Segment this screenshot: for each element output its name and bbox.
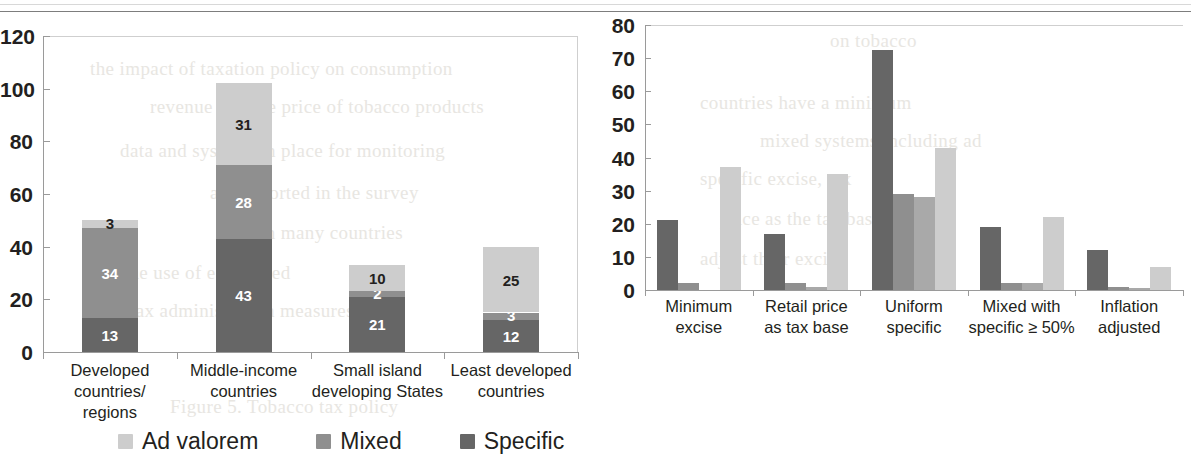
y-axis-tick-mark <box>43 89 50 90</box>
x-axis-tick-mark <box>753 290 754 296</box>
bar-rect <box>914 197 935 290</box>
bar-rect <box>1087 250 1108 290</box>
bar-value-label: 12 <box>483 329 539 344</box>
bar-rect <box>827 174 848 290</box>
y-axis-tick-label: 100 <box>0 78 33 99</box>
y-axis-tick-label: 50 <box>595 114 635 135</box>
bar-rect <box>893 194 914 290</box>
x-axis-category-label: Small island developing States <box>311 360 445 402</box>
y-axis-tick-mark <box>645 191 651 192</box>
legend-item-label: Mixed <box>340 428 401 455</box>
y-axis-tick-mark <box>645 58 651 59</box>
y-axis-tick-mark <box>645 257 651 258</box>
legend-swatch <box>118 434 133 449</box>
x-axis-tick-mark <box>177 352 178 359</box>
bar-value-label: 13 <box>82 327 138 342</box>
bar-value-label: 34 <box>82 266 138 281</box>
bar-rect <box>1001 283 1022 290</box>
plot-area-right: 01020304050607080Minimum exciseRetail pr… <box>595 0 1191 473</box>
bar-value-label: 10 <box>349 271 405 286</box>
bar-rect <box>1129 288 1150 290</box>
legend-item: Specific <box>460 428 565 455</box>
x-axis-tick-mark <box>1075 290 1076 296</box>
y-axis-tick-mark <box>645 158 651 159</box>
y-axis-tick-label: 10 <box>595 246 635 267</box>
legend-swatch <box>460 434 475 449</box>
bar-value-label: 21 <box>349 317 405 332</box>
y-axis-tick-label: 30 <box>595 180 635 201</box>
y-axis-tick-label: 40 <box>0 236 33 257</box>
y-axis-tick-mark <box>43 299 50 300</box>
bar-rect <box>1150 267 1171 290</box>
bar-rect <box>806 287 827 290</box>
bar-rect <box>720 167 741 290</box>
bar-rect <box>1022 283 1043 290</box>
legend-item-label: Ad valorem <box>142 428 258 455</box>
x-axis-tick-mark <box>444 352 445 359</box>
y-axis-tick-mark <box>43 36 50 37</box>
y-axis-tick-mark <box>43 352 50 353</box>
legend-item: Ad valorem <box>118 428 258 455</box>
plot-area-left: 02040608010012013343Developed countries/… <box>0 0 595 473</box>
x-axis-category-label: Least developed countries <box>444 360 578 402</box>
bar-rect <box>785 283 806 290</box>
bar-value-label: 31 <box>216 117 272 132</box>
stacked-bar-chart-tax-structure: 02040608010012013343Developed countries/… <box>0 0 595 473</box>
x-axis-tick-mark <box>311 352 312 359</box>
bar-value-label: 28 <box>216 194 272 209</box>
legend-item: Mixed <box>316 428 401 455</box>
x-axis-tick-mark <box>578 352 579 359</box>
y-axis-tick-mark <box>43 194 50 195</box>
bar-rect <box>872 50 893 290</box>
plot-top-rule <box>645 25 1183 26</box>
y-axis-tick-label: 0 <box>0 342 33 363</box>
x-axis-tick-mark <box>43 352 44 359</box>
y-axis-tick-mark <box>43 247 50 248</box>
bar-value-label: 43 <box>216 288 272 303</box>
y-axis-tick-label: 0 <box>595 280 635 301</box>
y-axis-tick-mark <box>645 91 651 92</box>
x-axis-line <box>645 290 1183 291</box>
y-axis-tick-label: 80 <box>595 15 635 36</box>
x-axis-category-label: Inflation adjusted <box>1075 296 1183 338</box>
y-axis-tick-label: 20 <box>595 213 635 234</box>
grouped-bar-chart-tax-measures: 01020304050607080Minimum exciseRetail pr… <box>595 0 1191 473</box>
bar-rect <box>935 148 956 290</box>
x-axis-category-label: Retail price as tax base <box>753 296 861 338</box>
x-axis-category-label: Uniform specific <box>860 296 968 338</box>
legend-swatch <box>316 434 331 449</box>
bar-value-label: 3 <box>82 216 138 231</box>
y-axis-tick-label: 60 <box>595 81 635 102</box>
y-axis-tick-label: 20 <box>0 289 33 310</box>
y-axis-tick-label: 120 <box>0 26 33 47</box>
x-axis-tick-mark <box>860 290 861 296</box>
legend-left: Ad valoremMixedSpecific <box>118 428 564 455</box>
x-axis-tick-mark <box>645 290 646 296</box>
bar-rect <box>1108 287 1129 290</box>
x-axis-tick-mark <box>1183 290 1184 296</box>
y-axis-tick-mark <box>645 25 651 26</box>
y-axis-tick-label: 80 <box>0 131 33 152</box>
figure-page: the impact of taxation policy on consump… <box>0 0 1191 473</box>
y-axis-tick-label: 40 <box>595 147 635 168</box>
x-axis-category-label: Developed countries/ regions <box>43 360 177 423</box>
bar-rect <box>980 227 1001 290</box>
bar-rect <box>678 283 699 290</box>
x-axis-category-label: Mixed with specific ≥ 50% <box>968 296 1076 338</box>
x-axis-category-label: Minimum excise <box>645 296 753 338</box>
y-axis-tick-mark <box>43 141 50 142</box>
bar-value-label: 25 <box>483 272 539 287</box>
x-axis-tick-mark <box>968 290 969 296</box>
legend-item-label: Specific <box>484 428 565 455</box>
y-axis-tick-mark <box>645 124 651 125</box>
bar-rect <box>657 220 678 290</box>
y-axis-tick-label: 60 <box>0 184 33 205</box>
y-axis-tick-label: 70 <box>595 48 635 69</box>
y-axis-tick-mark <box>645 224 651 225</box>
bar-rect <box>764 234 785 290</box>
x-axis-category-label: Middle-income countries <box>177 360 311 402</box>
bar-rect <box>1043 217 1064 290</box>
